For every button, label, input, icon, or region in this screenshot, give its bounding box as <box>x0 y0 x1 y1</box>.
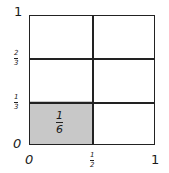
horizontal-divider-two-thirds <box>30 58 154 60</box>
horizontal-divider-one-third <box>30 102 154 104</box>
x-label-half: 1 2 <box>90 152 94 169</box>
numerator: 2 <box>14 50 18 57</box>
numerator: 1 <box>14 94 18 101</box>
y-label-1: 1 <box>14 4 22 19</box>
numerator: 1 <box>56 110 63 121</box>
numerator: 1 <box>90 152 94 159</box>
x-label-origin: 0 <box>25 152 33 167</box>
denominator: 6 <box>56 124 63 135</box>
denominator: 3 <box>14 104 18 111</box>
shaded-region-label: 1 6 <box>56 110 63 135</box>
unit-square-grid: 1 6 <box>29 15 155 145</box>
y-label-one-third: 1 3 <box>14 94 18 111</box>
denominator: 3 <box>14 60 18 67</box>
y-label-origin: 0 <box>13 136 21 151</box>
denominator: 2 <box>90 162 94 169</box>
x-label-1: 1 <box>151 152 159 167</box>
vertical-divider-half <box>92 16 94 144</box>
y-label-two-thirds: 2 3 <box>14 50 18 67</box>
